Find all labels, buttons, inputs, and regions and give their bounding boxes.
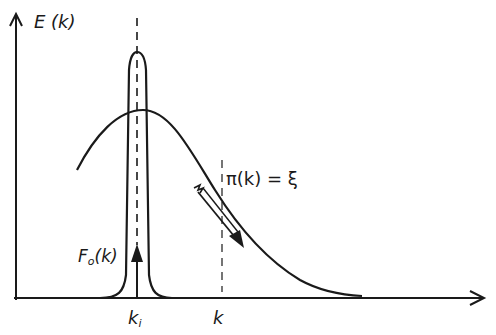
diagram-canvas: E (k) π(k) = ξ Fo(k) ki k bbox=[0, 0, 496, 335]
k-marker-label: k bbox=[213, 307, 223, 328]
ki-marker-label: ki bbox=[128, 307, 142, 330]
f0-label-tail: (k) bbox=[95, 246, 118, 266]
y-axis bbox=[10, 14, 22, 300]
ki-label-main: k bbox=[128, 307, 138, 328]
f0-curve-label: Fo(k) bbox=[78, 246, 118, 268]
y-axis-label: E (k) bbox=[34, 11, 76, 32]
pi-broad-curve bbox=[77, 110, 362, 296]
upward-arrow bbox=[131, 244, 143, 298]
x-axis bbox=[14, 291, 484, 305]
pi-curve-label: π(k) = ξ bbox=[226, 168, 298, 189]
f0-label-main: F bbox=[78, 246, 88, 266]
f0-label-sub: o bbox=[88, 255, 95, 268]
ki-label-sub: i bbox=[138, 317, 141, 330]
